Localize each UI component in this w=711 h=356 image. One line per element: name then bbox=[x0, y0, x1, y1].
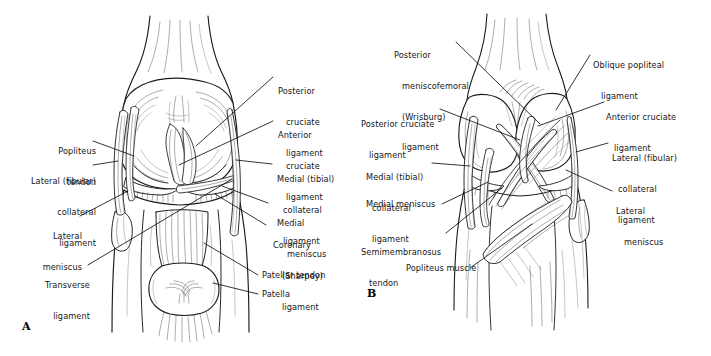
label-popliteus-muscle: Popliteus muscle bbox=[406, 263, 496, 273]
label-patellar-tendon: Patellar tendon bbox=[262, 270, 352, 280]
label-line: Posterior cruciate bbox=[361, 119, 451, 129]
label-line: Medial (tibial) bbox=[277, 174, 363, 184]
label-line: Anterior bbox=[278, 130, 358, 140]
label-transverse-ligament: Transverse ligament bbox=[4, 260, 90, 331]
label-line: Coronary bbox=[273, 240, 353, 250]
label-line: Oblique popliteal bbox=[593, 60, 693, 70]
label-line: Semimembranosus bbox=[361, 247, 457, 257]
label-line: ligament bbox=[4, 311, 90, 321]
label-line: Medial (tibial) bbox=[366, 172, 444, 182]
label-lateral-meniscus-b: Lateral meniscus bbox=[616, 186, 698, 257]
label-line: meniscofemoral bbox=[394, 81, 494, 91]
label-line: meniscus bbox=[616, 237, 698, 247]
label-line: Posterior bbox=[278, 86, 358, 96]
label-patella: Patella bbox=[262, 289, 322, 299]
label-medial-meniscus-b: Medial meniscus bbox=[366, 199, 450, 209]
label-line: Posterior bbox=[394, 50, 494, 60]
panel-b-marker: B bbox=[367, 287, 376, 300]
label-line: Lateral bbox=[8, 231, 82, 241]
label-line: Anterior cruciate bbox=[606, 112, 702, 122]
label-line: Lateral bbox=[616, 206, 698, 216]
label-line: Transverse bbox=[4, 280, 90, 290]
label-line: Lateral (fibular) bbox=[2, 176, 96, 186]
label-line: Lateral (fibular) bbox=[612, 153, 708, 163]
panel-a-marker: A bbox=[22, 320, 31, 333]
label-line: ligament bbox=[273, 302, 353, 312]
